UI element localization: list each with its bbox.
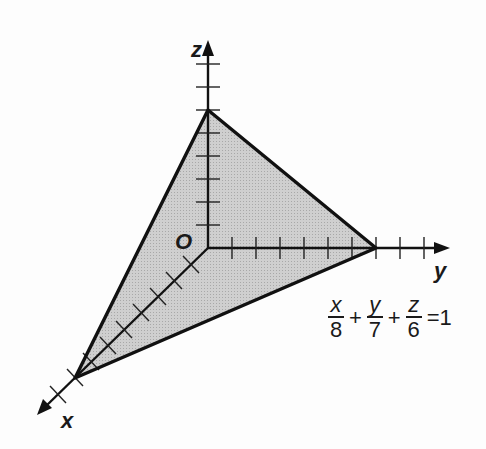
numerator: x <box>330 294 343 316</box>
term-z: z 6 <box>406 294 422 342</box>
z-arrow-icon <box>202 40 214 56</box>
z-axis-label: z <box>190 37 202 62</box>
coordinate-diagram: z y x O <box>0 0 486 449</box>
denominator: 8 <box>330 318 342 342</box>
plane-equation: x 8 + y 7 + z 6 =1 <box>326 294 455 342</box>
y-arrow-icon <box>434 242 450 254</box>
numerator: z <box>407 294 420 316</box>
x-axis-label: x <box>60 408 74 433</box>
equals-one: =1 <box>427 305 452 331</box>
term-x: x 8 <box>328 294 344 342</box>
plus-sign: + <box>388 305 401 331</box>
origin-label: O <box>175 229 192 254</box>
numerator: y <box>368 294 381 316</box>
denominator: 7 <box>369 318 381 342</box>
term-y: y 7 <box>367 294 383 342</box>
y-axis-label: y <box>433 258 448 283</box>
plus-sign: + <box>349 305 362 331</box>
denominator: 6 <box>408 318 420 342</box>
